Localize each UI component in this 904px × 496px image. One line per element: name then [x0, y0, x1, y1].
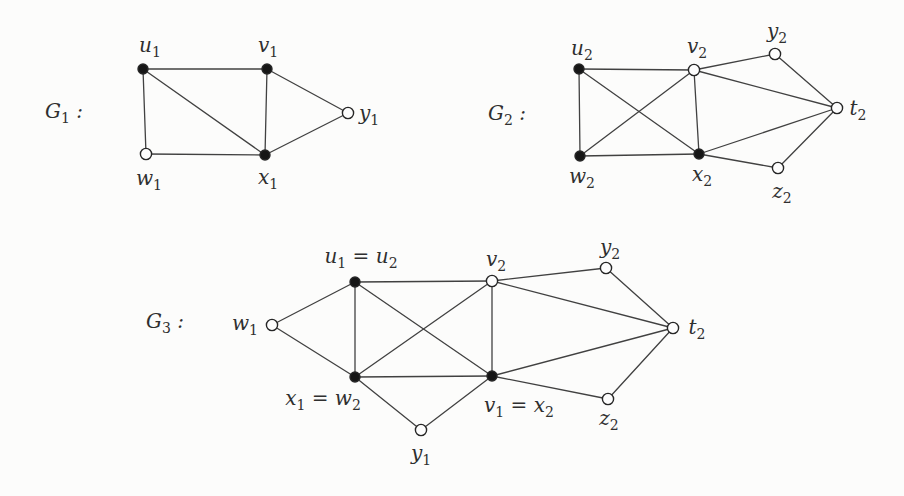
edge-G3-w1-u	[272, 282, 355, 325]
edge-G2-x2-t2	[699, 108, 837, 154]
edge-G1-u1-w1	[143, 69, 146, 154]
edge-G3-u-v2	[355, 281, 492, 282]
edge-G2-w2-x2	[580, 154, 699, 156]
vertex-G3-y2-open	[600, 262, 611, 273]
vertex-label-G3-xw: x1 = w2	[285, 386, 361, 413]
vertex-label-G1-w1: w1	[136, 166, 162, 193]
vertex-G1-u1-filled	[138, 64, 148, 74]
edge-G3-vx-y1	[421, 376, 492, 430]
vertex-label-G3-t2: t2	[689, 315, 706, 342]
edge-G1-w1-x1	[146, 154, 265, 155]
vertex-label-G2-x2: x2	[692, 162, 712, 189]
vertex-label-G3-v2: v2	[486, 247, 506, 274]
vertex-label-G2-w2: w2	[569, 164, 595, 191]
edge-G3-xw-vx	[355, 376, 492, 377]
vertex-label-G2-y2: y2	[766, 19, 787, 46]
graph-G1: u1v1y1w1x1G1 :	[45, 33, 379, 193]
vertex-label-G3-u: u1 = u2	[324, 244, 397, 271]
edge-G2-u2-v2	[579, 69, 694, 70]
vertex-G2-y2-open	[769, 48, 780, 59]
edge-G1-v1-x1	[265, 69, 267, 155]
graph-label-G1: G1 :	[45, 99, 83, 126]
vertex-G2-t2-open	[831, 102, 842, 113]
graph-G3: w1u1 = u2v2y2t2x1 = w2v1 = x2y1z2G3 :	[146, 235, 705, 468]
vertex-G2-x2-filled	[694, 149, 704, 159]
edge-G1-v1-y1	[267, 69, 348, 113]
vertex-label-G2-t2: t2	[850, 96, 867, 123]
edge-G3-w1-xw	[272, 325, 355, 377]
figure-canvas: u1v1y1w1x1G1 :u2v2y2t2w2x2z2G2 :w1u1 = u…	[0, 0, 904, 496]
edge-G1-x1-y1	[265, 113, 348, 155]
vertex-label-G2-v2: v2	[687, 34, 707, 61]
vertex-G3-t2-open	[667, 322, 678, 333]
vertex-label-G1-v1: v1	[258, 33, 278, 60]
vertex-G1-v1-filled	[262, 64, 272, 74]
vertex-label-G2-z2: z2	[771, 179, 791, 206]
vertex-G3-vx-filled	[487, 371, 497, 381]
edge-G2-u2-w2	[579, 69, 580, 156]
vertex-G3-xw-filled	[350, 372, 360, 382]
vertex-label-G3-w1: w1	[232, 311, 258, 338]
vertex-G2-z2-open	[772, 162, 783, 173]
edge-G2-v2-w2	[580, 70, 694, 156]
vertex-label-G1-x1: x1	[258, 165, 278, 192]
vertex-G2-u2-filled	[574, 64, 584, 74]
edge-G2-v2-x2	[694, 70, 699, 154]
graph-label-G3: G3 :	[146, 309, 184, 336]
vertex-label-G3-vx: v1 = x2	[484, 393, 554, 420]
edge-G3-z2-t2	[608, 328, 673, 399]
vertex-G3-z2-open	[602, 393, 613, 404]
vertex-G3-u-filled	[350, 277, 360, 287]
edge-G3-vx-t2	[492, 328, 673, 376]
vertex-label-G3-y2: y2	[599, 235, 620, 262]
vertex-label-G1-y1: y1	[358, 101, 379, 128]
edge-G2-x2-z2	[699, 154, 778, 168]
edge-G3-v2-y2	[492, 268, 606, 281]
graph-amalgamation-figure: u1v1y1w1x1G1 :u2v2y2t2w2x2z2G2 :w1u1 = u…	[0, 0, 904, 496]
graph-G2: u2v2y2t2w2x2z2G2 :	[488, 19, 866, 206]
vertex-G1-y1-open	[342, 107, 353, 118]
edge-G1-u1-x1	[143, 69, 265, 155]
vertex-label-G1-u1: u1	[139, 33, 161, 60]
vertex-G1-w1-open	[140, 148, 151, 159]
vertex-label-G2-u2: u2	[571, 36, 593, 63]
vertex-G3-w1-open	[266, 319, 277, 330]
vertex-G1-x1-filled	[260, 150, 270, 160]
graph-label-G2: G2 :	[488, 101, 526, 128]
vertex-G3-y1-open	[415, 424, 426, 435]
edge-G2-z2-t2	[778, 108, 837, 168]
vertex-G2-v2-open	[688, 64, 699, 75]
vertex-G3-v2-open	[486, 275, 497, 286]
vertex-label-G3-y1: y1	[410, 441, 431, 468]
vertex-G2-w2-filled	[575, 151, 585, 161]
vertex-label-G3-z2: z2	[598, 406, 618, 433]
edge-G3-xw-y1	[355, 377, 421, 430]
